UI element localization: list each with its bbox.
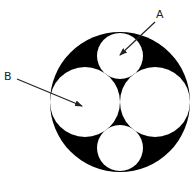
circle-packing-diagram: AB [0, 0, 193, 172]
label-b: B [4, 70, 12, 83]
inner-circle-bottom [97, 125, 143, 171]
inner-circle-left [50, 67, 120, 137]
label-a: A [156, 8, 164, 21]
inner-circle-right [120, 67, 190, 137]
